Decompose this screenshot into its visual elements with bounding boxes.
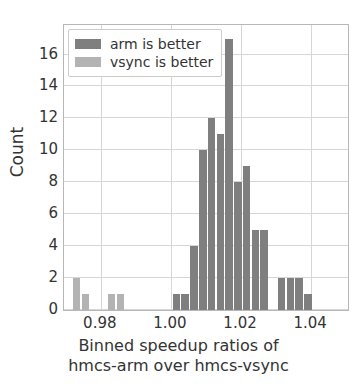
x-axis-label-line1: Binned speedup ratios of (0, 336, 357, 356)
histogram-bar (82, 294, 90, 310)
histogram-bar (108, 294, 116, 310)
histogram-bar (278, 278, 286, 310)
histogram-bar (252, 230, 260, 310)
y-tick-label: 2 (18, 268, 58, 286)
histogram-bar (225, 39, 233, 310)
histogram-bar (181, 294, 189, 310)
gridline-vertical (311, 25, 312, 310)
histogram-bar (260, 230, 268, 310)
legend-item: vsync is better (75, 53, 213, 71)
legend-label: vsync is better (110, 54, 213, 70)
histogram-bar (73, 278, 81, 310)
x-tick-label: 0.98 (83, 314, 116, 332)
gridline-horizontal (64, 85, 348, 86)
x-tick-label: 1.04 (293, 314, 326, 332)
legend-item: arm is better (75, 35, 213, 53)
x-axis-tick-labels: 0.981.001.021.04 (63, 314, 349, 334)
y-tick-label: 6 (18, 204, 58, 222)
y-tick-label: 4 (18, 236, 58, 254)
histogram-bar (217, 134, 225, 310)
y-tick-label: 12 (18, 108, 58, 126)
histogram-bar (243, 166, 251, 310)
histogram-bar (304, 294, 312, 310)
histogram-bar (208, 118, 216, 310)
y-tick-label: 16 (18, 45, 58, 63)
x-axis-label-line2: hmcs-arm over hmcs-vsync (0, 356, 357, 376)
histogram-bar (117, 294, 125, 310)
histogram-bar (173, 294, 181, 310)
histogram-bar (234, 182, 242, 310)
y-tick-label: 10 (18, 140, 58, 158)
y-tick-label: 14 (18, 76, 58, 94)
legend-swatch-icon (75, 39, 101, 49)
x-axis-label: Binned speedup ratios of hmcs-arm over h… (0, 336, 357, 376)
histogram-figure: Count 0246810121416 0.981.001.021.04 Bin… (0, 0, 357, 388)
gridline-horizontal (64, 117, 348, 118)
histogram-bar (199, 150, 207, 310)
y-axis-tick-labels: 0246810121416 (18, 0, 58, 388)
x-tick-label: 1.02 (223, 314, 256, 332)
x-tick-label: 1.00 (153, 314, 186, 332)
histogram-bar (190, 246, 198, 310)
legend-label: arm is better (110, 36, 201, 52)
histogram-bar (295, 278, 303, 310)
y-tick-label: 0 (18, 300, 58, 318)
histogram-bar (287, 278, 295, 310)
legend-swatch-icon (75, 57, 101, 67)
legend: arm is bettervsync is better (68, 29, 222, 77)
y-tick-label: 8 (18, 172, 58, 190)
